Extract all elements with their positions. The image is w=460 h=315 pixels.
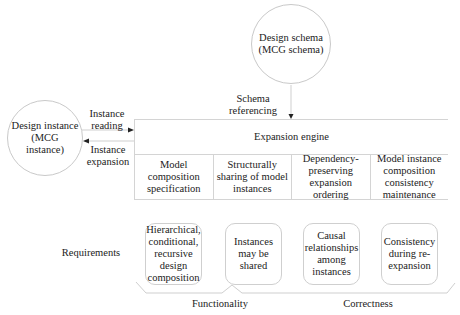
instance-expansion-line1: Instance [84,144,132,156]
component-text: maintenance [377,189,441,201]
engine-component-consistency-maintenance: Model instance composition consistency m… [371,154,449,200]
component-text: preserving [303,165,359,177]
engine-component-model-composition: Model composition specification [135,154,214,200]
requirement-text: among [305,254,359,266]
component-text: expansion [303,177,359,189]
component-text: ordering [303,189,359,201]
requirements-label: Requirements [56,247,126,259]
component-text: consistency [377,177,441,189]
component-text: composition [147,171,201,183]
instance-expansion-line2: expansion [84,156,132,168]
requirement-text: Consistency [384,236,435,248]
requirement-text: design [146,260,201,272]
design-instance-sublabel-2: instance) [12,144,79,156]
component-text: composition [377,165,441,177]
requirement-text: Instances [234,236,273,248]
component-text: Structurally [217,159,288,171]
requirement-hierarchical-composition: Hierarchical, conditional, recursive des… [145,223,202,285]
requirement-text: Causal [305,230,359,242]
requirement-consistency-reexpansion: Consistency during re- expansion [381,223,438,285]
requirement-text: relationships [305,242,359,254]
schema-referencing-line1: Schema [228,93,278,105]
component-text: sharing of model [217,171,288,183]
requirement-causal-relationships: Causal relationships among instances [303,223,360,285]
requirement-instances-shared: Instances may be shared [225,223,282,285]
design-instance-label: Design instance [12,120,79,132]
expansion-engine-box: Expansion engine Model composition speci… [134,119,448,200]
design-schema-sublabel: (MCG schema) [258,44,323,56]
design-schema-node: Design schema (MCG schema) [251,4,331,84]
instance-reading-line2: reading [84,120,130,132]
requirement-text: instances [305,266,359,278]
component-text: Model [147,159,201,171]
functionality-label: Functionality [180,298,260,310]
instance-expansion-label: Instance expansion [84,144,132,168]
correctness-label: Correctness [328,298,408,310]
schema-referencing-line2: referencing [228,105,278,117]
schema-referencing-label: Schema referencing [228,93,278,117]
requirement-text: Hierarchical, [146,224,201,236]
requirement-text: shared [234,260,273,272]
instance-reading-line1: Instance [84,108,130,120]
requirement-text: may be [234,248,273,260]
component-text: instances [217,183,288,195]
requirement-text: expansion [384,260,435,272]
component-text: specification [147,183,201,195]
instance-reading-label: Instance reading [84,108,130,132]
component-text: Model instance [377,153,441,165]
requirement-text: conditional, [146,236,201,248]
component-text: Dependency- [303,153,359,165]
arrow-left-icon [83,139,89,144]
requirement-text: recursive [146,248,201,260]
requirement-text: composition [146,272,201,284]
expansion-engine-title: Expansion engine [135,120,448,155]
engine-component-dependency-ordering: Dependency- preserving expansion orderin… [292,154,371,200]
design-instance-sublabel: (MCG [12,132,79,144]
engine-component-structural-sharing: Structurally sharing of model instances [214,154,293,200]
requirement-text: during re- [384,248,435,260]
design-instance-node: Design instance (MCG instance) [7,100,83,176]
design-schema-label: Design schema [258,32,323,44]
